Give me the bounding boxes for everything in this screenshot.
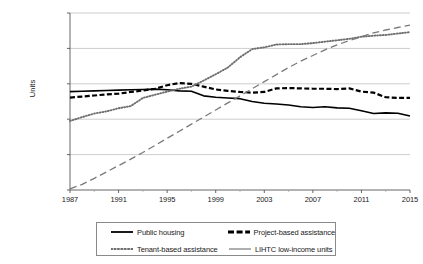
- line-chart: Units 0500,0001,000,0001,500,0002,000,00…: [0, 0, 423, 264]
- x-tick-label: 1987: [62, 195, 78, 204]
- legend-swatch-dotted-icon: [111, 244, 133, 254]
- legend-label-public-housing: Public housing: [137, 228, 184, 237]
- x-tick-label: 2007: [305, 195, 321, 204]
- legend-swatch-solid-icon: [111, 227, 133, 237]
- x-tick-label: 2003: [256, 195, 272, 204]
- legend-label-lihtc-low-income-units: LIHTC low-income units: [255, 245, 332, 254]
- legend-item-lihtc-low-income-units: LIHTC low-income units: [229, 241, 332, 257]
- x-tick-label: 1991: [110, 195, 126, 204]
- x-tick-label: 1995: [159, 195, 175, 204]
- chart-legend: Public housing Project-based assistance …: [96, 222, 336, 256]
- legend-item-public-housing: Public housing: [111, 224, 228, 240]
- legend-item-project-based-assistance: Project-based assistance: [228, 224, 335, 240]
- x-tick-label: 2011: [354, 195, 370, 204]
- legend-label-tenant-based-assistance: Tenant-based assistance: [137, 245, 218, 254]
- legend-swatch-dashed-icon: [228, 227, 250, 237]
- legend-label-project-based-assistance: Project-based assistance: [254, 228, 335, 237]
- legend-row-1: Public housing Project-based assistance: [97, 224, 335, 240]
- x-tick-label: 2015: [402, 195, 418, 204]
- legend-swatch-longdash-icon: [229, 244, 251, 254]
- legend-item-tenant-based-assistance: Tenant-based assistance: [111, 241, 229, 257]
- x-tick-label: 1999: [208, 195, 224, 204]
- legend-row-2: Tenant-based assistance LIHTC low-income…: [97, 241, 335, 257]
